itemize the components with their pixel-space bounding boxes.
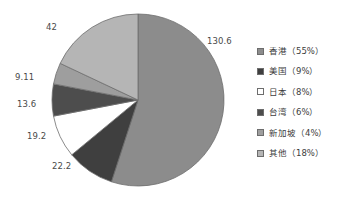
data-label-usa: 22.2 [52,161,71,171]
legend-item[interactable]: 新加坡（4%） [257,123,343,143]
legend-item[interactable]: 台湾（6%） [257,102,343,122]
legend-item-label: 其他（18%） [269,149,324,158]
pie-chart-figure: 130.6 22.2 19.2 13.6 9.11 42 香港（55%）美国（9… [0,0,343,197]
data-label-taiwan: 13.6 [17,99,36,109]
legend-item-label: 香港（55%） [269,47,324,56]
legend-item[interactable]: 美国（9%） [257,61,343,81]
legend-item-label: 台湾（6%） [269,108,319,117]
chart-legend: 香港（55%）美国（9%）日本（8%）台湾（6%）新加坡（4%）其他（18%） [257,41,343,163]
pie-plot-area: 130.6 22.2 19.2 13.6 9.11 42 [0,0,250,197]
legend-item[interactable]: 其他（18%） [257,143,343,163]
legend-swatch-icon [257,129,264,136]
pie-graphic [0,0,250,197]
data-label-other: 42 [46,22,57,32]
legend-item-label: 新加坡（4%） [269,129,328,138]
legend-swatch-icon [257,109,264,116]
legend-swatch-icon [257,88,264,95]
legend-swatch-icon [257,68,264,75]
legend-item[interactable]: 香港（55%） [257,41,343,61]
data-label-hongkong: 130.6 [207,36,232,46]
data-label-singapore: 9.11 [15,72,34,82]
legend-swatch-icon [257,48,264,55]
legend-swatch-icon [257,150,264,157]
legend-item-label: 美国（9%） [269,67,319,76]
legend-item-label: 日本（8%） [269,88,319,97]
data-label-japan: 19.2 [27,131,46,141]
legend-item[interactable]: 日本（8%） [257,82,343,102]
